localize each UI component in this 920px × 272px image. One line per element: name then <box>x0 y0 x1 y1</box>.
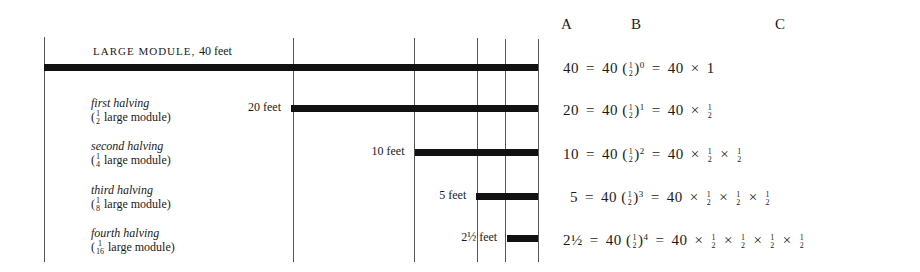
paren: ( <box>622 232 632 248</box>
value-a: 5 <box>570 189 578 205</box>
row-label-fourth-halving: fourth halving(116 large module) <box>91 226 175 256</box>
value-c-base: 40 <box>671 232 687 248</box>
times-sign: × <box>724 232 733 248</box>
module-fraction-label: (14 large module) <box>91 153 171 169</box>
module-fraction: 116 <box>96 240 104 256</box>
value-a: 20 <box>563 102 579 118</box>
equals-sign: = <box>652 102 661 118</box>
value-c-base: 40 <box>668 146 684 162</box>
equation-second-halving: 10=40 (12)2=40×12×12 <box>563 146 743 164</box>
half-fraction: 12 <box>628 191 633 207</box>
fraction-denominator: 2 <box>96 118 100 126</box>
fraction-denominator: 4 <box>96 161 100 169</box>
sublabel-text: large module) <box>105 240 175 254</box>
length-label-fourth-halving: 2½ feet <box>461 230 497 245</box>
paren-open: ( <box>91 153 95 167</box>
paren: ( <box>617 189 627 205</box>
paren-open: ( <box>91 240 95 254</box>
half-fraction: 12 <box>629 62 634 78</box>
equals-sign: = <box>652 146 661 162</box>
column-header-a: A <box>561 16 572 33</box>
times-sign: × <box>691 60 700 76</box>
half-fraction: 12 <box>800 234 805 250</box>
exponent: 3 <box>639 189 644 199</box>
times-sign: × <box>719 189 728 205</box>
value-b-base: 40 <box>601 189 617 205</box>
module-fraction: 18 <box>96 197 100 213</box>
module-fraction-label: (18 large module) <box>91 197 171 213</box>
fraction-denominator: 8 <box>96 205 100 213</box>
module-fraction-label: (12 large module) <box>91 110 171 126</box>
fraction-denominator: 2 <box>708 156 713 164</box>
half-fraction: 12 <box>736 191 741 207</box>
column-header-b: B <box>631 16 641 33</box>
fraction-denominator: 2 <box>629 112 634 120</box>
title-text: LARGE MODULE, <box>93 45 195 57</box>
value-c-base: 40 <box>668 60 684 76</box>
module-fraction-label: (116 large module) <box>91 240 175 256</box>
value-a: 40 <box>563 60 579 76</box>
guide-line-end <box>538 39 539 262</box>
length-label-second-halving: 10 feet <box>372 144 405 159</box>
half-fraction: 12 <box>711 234 716 250</box>
equals-sign: = <box>586 146 595 162</box>
halving-name: fourth halving <box>91 226 175 240</box>
half-fraction: 12 <box>708 104 713 120</box>
halving-name: first halving <box>91 96 171 110</box>
times-sign: × <box>691 146 700 162</box>
fraction-denominator: 2 <box>737 156 742 164</box>
equals-sign: = <box>586 102 595 118</box>
title-feet: 40 feet <box>199 44 232 58</box>
times-sign: × <box>783 232 792 248</box>
paren: ( <box>618 146 628 162</box>
equals-sign: = <box>651 189 660 205</box>
half-fraction: 12 <box>629 104 634 120</box>
fraction-denominator: 2 <box>632 242 637 250</box>
fraction-denominator: 2 <box>770 242 775 250</box>
fraction-denominator: 2 <box>736 199 741 207</box>
fraction-denominator: 2 <box>629 70 634 78</box>
equals-sign: = <box>590 232 599 248</box>
bar-first-halving <box>291 105 538 112</box>
row-label-third-halving: third halving(18 large module) <box>91 183 171 213</box>
row-label-first-halving: first halving(12 large module) <box>91 96 171 126</box>
fraction-denominator: 2 <box>707 199 712 207</box>
equation-large-module: 40=40 (12)0=40×1 <box>563 60 715 78</box>
paren: ( <box>618 102 628 118</box>
half-fraction: 12 <box>708 148 713 164</box>
fraction-denominator: 2 <box>708 112 713 120</box>
equals-sign: = <box>586 60 595 76</box>
value-b-base: 40 <box>602 102 618 118</box>
column-header-c: C <box>775 16 785 33</box>
bar-second-halving <box>415 149 539 156</box>
length-label-first-halving: 20 feet <box>248 100 281 115</box>
value-c-base: 40 <box>667 189 683 205</box>
half-fraction: 12 <box>632 234 637 250</box>
value-a: 2½ <box>563 232 583 248</box>
equals-sign: = <box>585 189 594 205</box>
bar-third-halving <box>476 193 538 200</box>
exponent: 2 <box>640 146 645 156</box>
equation-third-halving: 5=40 (12)3=40×12×12×12 <box>570 189 771 207</box>
exponent: 1 <box>640 102 645 112</box>
times-sign: × <box>694 232 703 248</box>
half-fraction: 12 <box>629 148 634 164</box>
row-label-second-halving: second halving(14 large module) <box>91 139 171 169</box>
half-fraction: 12 <box>707 191 712 207</box>
fraction-denominator: 2 <box>628 199 633 207</box>
fraction-denominator: 2 <box>800 242 805 250</box>
halving-name: third halving <box>91 183 171 197</box>
fraction-denominator: 2 <box>741 242 746 250</box>
sublabel-text: large module) <box>101 110 171 124</box>
fraction-denominator: 2 <box>711 242 716 250</box>
length-label-third-halving: 5 feet <box>439 188 466 203</box>
half-fraction: 12 <box>766 191 771 207</box>
guide-line-20ft <box>293 38 294 262</box>
paren: ( <box>618 60 628 76</box>
times-sign: × <box>690 189 699 205</box>
module-fraction: 12 <box>96 110 100 126</box>
value-b-base: 40 <box>602 146 618 162</box>
times-sign: × <box>720 146 729 162</box>
value-b-base: 40 <box>606 232 622 248</box>
halving-name: second halving <box>91 139 171 153</box>
